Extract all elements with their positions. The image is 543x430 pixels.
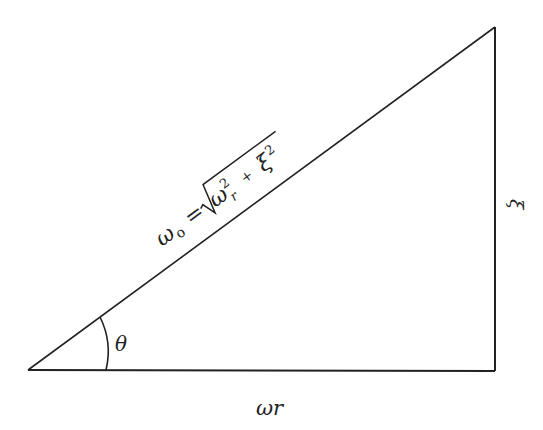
angle-arc xyxy=(100,317,108,370)
plus-sign: + xyxy=(237,166,256,186)
base-side xyxy=(28,370,495,371)
angle-label: θ xyxy=(115,332,127,356)
triangle-diagram: θ ωr ξ ω o = ω 2 r + ξ 2 xyxy=(0,0,543,430)
base-label: ωr xyxy=(256,396,285,420)
hypotenuse-formula: ω o = ω 2 r + ξ 2 xyxy=(147,131,297,254)
equals-sign: = xyxy=(179,199,209,230)
omega-o: ω xyxy=(150,220,179,251)
vertical-side-label: ξ xyxy=(506,199,528,211)
hypotenuse-side xyxy=(28,27,495,370)
